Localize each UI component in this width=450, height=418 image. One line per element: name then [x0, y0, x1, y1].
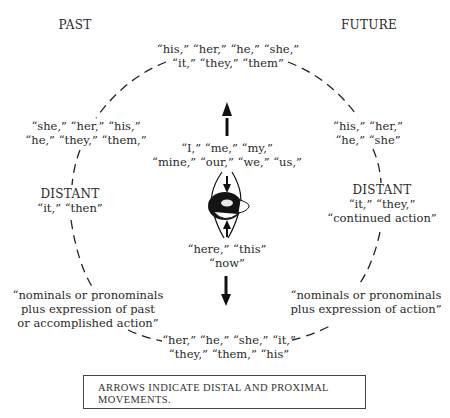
label-line: “nominals or pronominals	[290, 288, 441, 302]
arrow-down-icon	[221, 276, 231, 306]
heading-past: PAST	[58, 18, 91, 32]
distant-title: DISTANT	[327, 183, 436, 197]
label-bottom-pronouns: “her,” “he,” “she,” “it,” “they,” “them,…	[162, 333, 296, 361]
dashed-arc-right-lower	[358, 232, 380, 286]
dashed-arc-left-upper	[72, 150, 80, 185]
label-line: plus expression of action”	[290, 302, 441, 316]
label-line: “continued action”	[327, 211, 436, 225]
label-line: “here,” “this”	[188, 242, 267, 256]
dashed-arc-right-upper	[373, 149, 381, 183]
dashed-arc-bottom-right	[292, 325, 332, 340]
label-line: “nominals or pronominals	[13, 288, 164, 302]
label-line: “it,” “they,” “them”	[157, 56, 299, 70]
label-line: “his,” “her,”	[333, 119, 403, 133]
label-upper-left-pronouns: “she,” “her,” “his,” “he,” “they,” “them…	[25, 119, 146, 147]
legend-line: MOVEMENTS.	[98, 394, 365, 406]
label-line: “his,” “her,” “he,” “she,”	[157, 42, 299, 56]
label-line: “he,” “they,” “them,”	[25, 133, 146, 147]
label-right-distant: DISTANT “it,” “they,” “continued action”	[327, 183, 436, 225]
label-line: “they,” “them,” “his”	[162, 347, 296, 361]
dashed-arc-bottom-left	[128, 330, 162, 341]
label-center-self-pronouns: “I,” “me,” “my,” “mine,” “our,” “we,” “u…	[152, 141, 302, 169]
label-line: “I,” “me,” “my,”	[152, 141, 302, 155]
label-center-here-now: “here,” “this” “now”	[188, 242, 267, 270]
dashed-arc-top-left	[96, 62, 166, 118]
label-line: or accomplished action”	[13, 316, 164, 330]
label-line: “it,” “then”	[37, 201, 102, 215]
label-line: “her,” “he,” “she,” “it,”	[162, 333, 296, 347]
heading-future: FUTURE	[341, 18, 397, 32]
label-top-pronouns: “his,” “her,” “he,” “she,” “it,” “they,”…	[157, 42, 299, 70]
label-line: “it,” “they,”	[327, 197, 436, 211]
label-line: “now”	[188, 256, 267, 270]
legend-box: ARROWS INDICATE DISTAL AND PROXIMAL MOVE…	[83, 375, 366, 409]
label-upper-right-pronouns: “his,” “her,” “he,” “she”	[333, 119, 403, 147]
person-head-top-view-icon	[208, 172, 249, 238]
arrow-up-icon	[222, 102, 232, 136]
dashed-arc-top-right	[288, 62, 358, 117]
label-line: “mine,” “our,” “we,” “us,”	[152, 155, 302, 169]
label-line: “he,” “she”	[333, 133, 403, 147]
distant-title: DISTANT	[37, 187, 102, 201]
label-line: plus expression of past	[13, 302, 164, 316]
label-lower-right-nominals: “nominals or pronominals plus expression…	[290, 288, 441, 316]
label-lower-left-nominals: “nominals or pronominals plus expression…	[13, 288, 164, 330]
label-left-distant: DISTANT “it,” “then”	[37, 187, 102, 215]
dashed-arc-left-lower	[71, 220, 93, 288]
label-line: “she,” “her,” “his,”	[25, 119, 146, 133]
legend-line: ARROWS INDICATE DISTAL AND PROXIMAL	[98, 382, 365, 394]
